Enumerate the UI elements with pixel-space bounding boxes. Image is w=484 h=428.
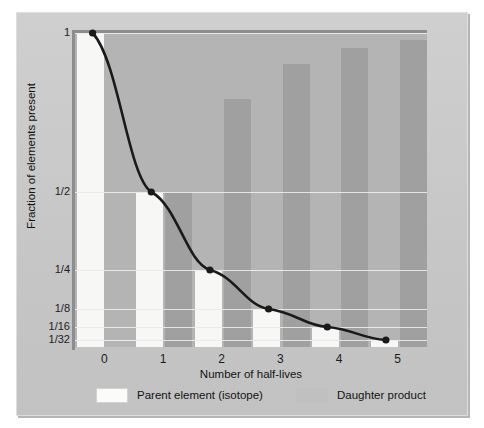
plot-panel (75, 33, 427, 347)
bar-daughter (341, 48, 368, 347)
x-tick-label: 4 (319, 352, 359, 366)
bar-daughter (283, 64, 310, 347)
gridline-overlay (75, 340, 427, 341)
legend-item-parent: Parent element (isotope) (96, 383, 263, 407)
x-tick-label: 3 (260, 352, 300, 366)
bar-daughter (400, 40, 427, 347)
legend-item-daughter: Daughter product (296, 383, 426, 407)
legend-swatch-daughter-icon (296, 388, 328, 403)
y-axis-title: Fraction of elements present (25, 41, 37, 271)
y-tick-label: 1 (64, 27, 70, 38)
figure-root: 11/21/41/81/161/32 012345 Number of half… (0, 0, 484, 428)
x-tick-label: 0 (84, 352, 124, 366)
gridline-overlay (75, 327, 427, 328)
y-tick-label: 1/4 (55, 264, 70, 275)
y-tick-label: 1/16 (49, 321, 70, 332)
y-tick-label: 1/32 (49, 334, 70, 345)
legend-label-daughter: Daughter product (337, 389, 426, 401)
legend-swatch-parent-icon (96, 388, 128, 403)
x-tick-label: 2 (202, 352, 242, 366)
gridline-overlay (75, 33, 427, 34)
chart-legend: Parent element (isotope) Daughter produc… (10, 383, 442, 407)
gridline-overlay (75, 270, 427, 271)
x-tick-label: 1 (143, 352, 183, 366)
x-axis-title: Number of half-lives (75, 368, 427, 380)
gridline-overlay (75, 309, 427, 310)
gridline-overlay (75, 192, 427, 193)
legend-label-parent: Parent element (isotope) (137, 389, 263, 401)
bar-parent (77, 33, 104, 347)
bar-parent (253, 309, 280, 347)
y-tick-label: 1/2 (55, 186, 70, 197)
y-tick-label: 1/8 (55, 303, 70, 314)
bar-parent (312, 327, 339, 347)
bar-parent (371, 340, 398, 347)
x-tick-label: 5 (378, 352, 418, 366)
